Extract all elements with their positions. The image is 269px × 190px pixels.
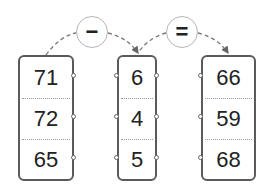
- port-icon: [198, 73, 203, 78]
- port-icon: [198, 155, 203, 160]
- difference-cell: 59: [203, 98, 254, 139]
- port-icon: [71, 114, 76, 119]
- port-icon: [198, 114, 203, 119]
- minuend-cell: 65: [20, 139, 72, 180]
- difference-cell: 68: [203, 139, 254, 180]
- port-icon: [71, 155, 76, 160]
- port-icon: [114, 155, 119, 160]
- equals-operator: =: [166, 16, 198, 48]
- subtrahend-cell: 4: [119, 98, 155, 139]
- port-icon: [114, 114, 119, 119]
- minuend-cell: 72: [20, 98, 72, 139]
- port-icon: [114, 73, 119, 78]
- minus-symbol: −: [86, 19, 99, 45]
- port-icon: [154, 155, 159, 160]
- port-icon: [154, 114, 159, 119]
- port-icon: [71, 73, 76, 78]
- equals-symbol: =: [176, 19, 189, 45]
- subtrahend-column: 6 4 5: [117, 55, 157, 181]
- minus-operator: −: [76, 16, 108, 48]
- minuend-cell: 71: [20, 57, 72, 98]
- subtrahend-cell: 6: [119, 57, 155, 98]
- minuend-column: 71 72 65: [18, 55, 74, 181]
- port-icon: [154, 73, 159, 78]
- difference-cell: 66: [203, 57, 254, 98]
- subtrahend-cell: 5: [119, 139, 155, 180]
- difference-column: 66 59 68: [201, 55, 256, 181]
